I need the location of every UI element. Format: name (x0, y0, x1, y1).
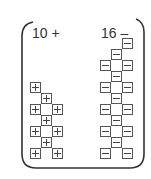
tile-horizontal-stroke (113, 76, 120, 77)
tile-horizontal-stroke (113, 54, 120, 55)
minus-tile-icon (100, 104, 111, 115)
tile-vertical-stroke (35, 128, 36, 135)
tile-vertical-stroke (46, 117, 47, 124)
plus-tile-icon (30, 126, 41, 137)
tile-horizontal-stroke (124, 87, 131, 88)
plus-tile-icon (52, 104, 63, 115)
tile-horizontal-stroke (113, 98, 120, 99)
minus-tile-icon (122, 148, 133, 159)
tile-vertical-stroke (35, 84, 36, 91)
plus-tile-icon (52, 126, 63, 137)
tile-horizontal-stroke (124, 109, 131, 110)
minus-tile-icon (111, 71, 122, 82)
minus-tile-icon (122, 126, 133, 137)
positive-count-label: 10 + (32, 26, 60, 40)
plus-tile-icon (41, 93, 52, 104)
tile-vertical-stroke (57, 128, 58, 135)
tile-vertical-stroke (46, 95, 47, 102)
minus-tile-icon (111, 137, 122, 148)
minus-tile-icon (100, 126, 111, 137)
plus-tile-icon (30, 148, 41, 159)
tile-vertical-stroke (57, 106, 58, 113)
minus-tile-icon (100, 148, 111, 159)
tile-vertical-stroke (35, 106, 36, 113)
tile-horizontal-stroke (124, 131, 131, 132)
tile-horizontal-stroke (102, 65, 109, 66)
tile-horizontal-stroke (102, 109, 109, 110)
plus-tile-icon (30, 104, 41, 115)
tile-horizontal-stroke (113, 120, 120, 121)
minus-tile-icon (122, 104, 133, 115)
minus-tile-icon (122, 82, 133, 93)
plus-tile-icon (30, 82, 41, 93)
minus-tile-icon (100, 60, 111, 71)
tile-horizontal-stroke (124, 153, 131, 154)
tile-horizontal-stroke (113, 142, 120, 143)
minus-tile-icon (100, 82, 111, 93)
tile-horizontal-stroke (124, 65, 131, 66)
minus-tile-icon (111, 93, 122, 104)
minus-tile-icon (111, 115, 122, 126)
plus-tile-icon (41, 137, 52, 148)
tile-vertical-stroke (46, 139, 47, 146)
tile-horizontal-stroke (102, 131, 109, 132)
tile-horizontal-stroke (102, 87, 109, 88)
tile-vertical-stroke (35, 150, 36, 157)
tile-vertical-stroke (57, 150, 58, 157)
tile-horizontal-stroke (102, 153, 109, 154)
plus-tile-icon (41, 115, 52, 126)
minus-tile-icon (122, 38, 133, 49)
minus-tile-icon (122, 60, 133, 71)
tile-horizontal-stroke (124, 43, 131, 44)
minus-tile-icon (111, 49, 122, 60)
plus-tile-icon (52, 148, 63, 159)
